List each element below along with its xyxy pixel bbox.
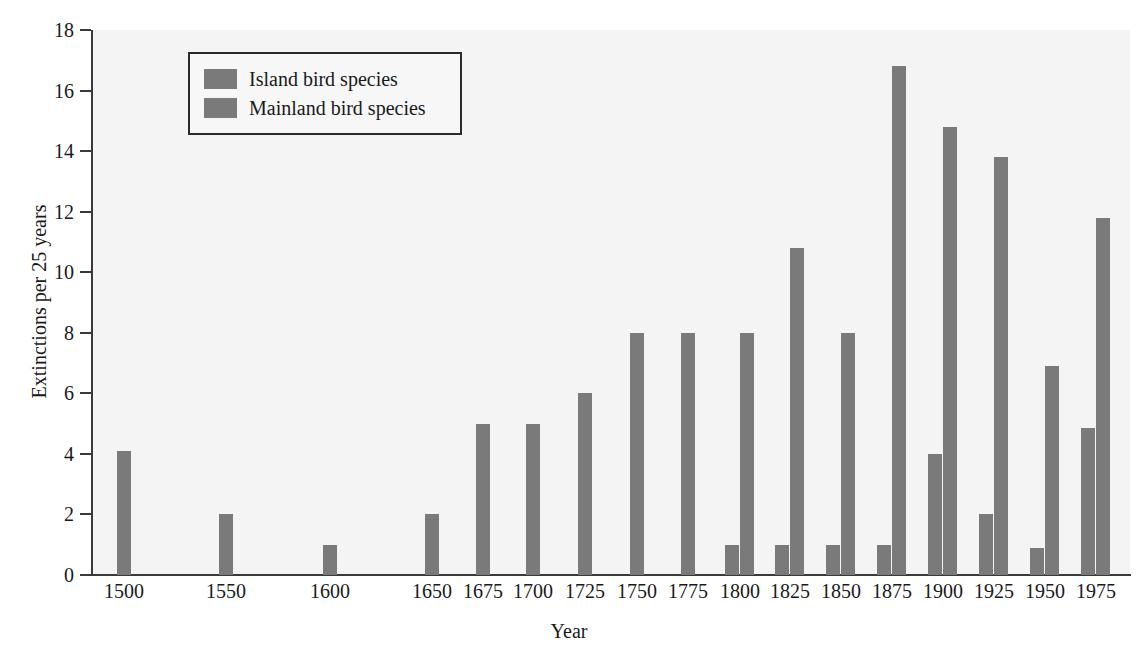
chart-legend: Island bird speciesMainland bird species <box>188 52 462 135</box>
y-axis-tick <box>80 29 91 31</box>
bar-island <box>740 333 754 575</box>
bar-mainland <box>826 545 840 575</box>
bar-mainland <box>877 545 891 575</box>
legend-item: Island bird species <box>204 64 446 93</box>
extinctions-bar-chart-figure: 024681012141618 Extinctions per 25 years… <box>0 0 1138 658</box>
bar-island <box>841 333 855 575</box>
legend-item-label: Island bird species <box>249 69 398 89</box>
y-axis-tick <box>80 211 91 213</box>
bar-mainland <box>1030 548 1044 575</box>
bar-island <box>578 393 592 575</box>
bar-island <box>425 514 439 575</box>
bar-mainland <box>775 545 789 575</box>
legend-swatch-icon <box>204 69 237 89</box>
bar-island <box>943 127 957 575</box>
legend-swatch-icon <box>204 98 237 118</box>
bar-island <box>994 157 1008 575</box>
x-axis-tick-label: 1500 <box>89 581 159 601</box>
bar-island <box>790 248 804 575</box>
bar-island <box>1096 218 1110 575</box>
bar-island <box>323 545 337 575</box>
bar-mainland <box>725 545 739 575</box>
bar-island <box>117 451 131 575</box>
x-axis-title: Year <box>0 620 1138 643</box>
y-axis-tick <box>80 332 91 334</box>
x-axis-tick-label: 1600 <box>295 581 365 601</box>
y-axis-tick <box>80 271 91 273</box>
x-axis-tick-label: 1975 <box>1061 581 1131 601</box>
y-axis-tick-label: 18 <box>34 20 74 40</box>
bar-mainland <box>979 514 993 575</box>
bar-island <box>476 424 490 575</box>
y-axis-tick <box>80 150 91 152</box>
y-axis-tick <box>80 574 91 576</box>
bar-island <box>892 66 906 575</box>
y-axis-tick <box>80 513 91 515</box>
legend-item-label: Mainland bird species <box>249 98 426 118</box>
bar-island <box>219 514 233 575</box>
y-axis-tick-label: 0 <box>34 565 74 585</box>
bar-island <box>1045 366 1059 575</box>
y-axis-tick <box>80 392 91 394</box>
y-axis-tick <box>80 453 91 455</box>
bar-island <box>630 333 644 575</box>
legend-item: Mainland bird species <box>204 93 446 122</box>
y-axis-title: Extinctions per 25 years <box>28 67 51 537</box>
bar-island <box>526 424 540 575</box>
bar-island <box>681 333 695 575</box>
y-axis-tick <box>80 90 91 92</box>
bar-mainland <box>928 454 942 575</box>
x-axis-tick-label: 1550 <box>191 581 261 601</box>
bar-mainland <box>1081 428 1095 575</box>
